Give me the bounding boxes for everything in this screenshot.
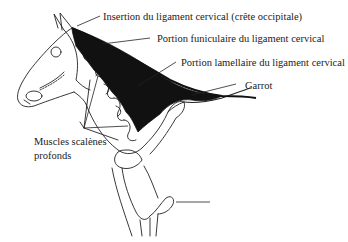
label-funiculaire: Portion funiculaire du ligament cervical (157, 33, 324, 44)
label-scalenes-line2: profonds (34, 150, 71, 161)
label-insertion: Insertion du ligament cervical (crête oc… (103, 11, 302, 22)
label-garrot: Garrot (245, 80, 272, 91)
label-lamellaire: Portion lamellaire du ligament cervical (181, 57, 345, 68)
horse-head-outline (18, 13, 91, 107)
label-scalenes-line1: Muscles scalènes (34, 136, 107, 147)
